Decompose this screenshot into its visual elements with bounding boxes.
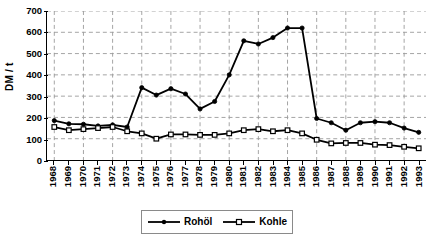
- plot-area: [46, 11, 426, 161]
- x-tick-label: 1985: [297, 166, 307, 187]
- y-axis-title: DM / t: [2, 42, 16, 112]
- x-axis-tick-labels: 1968196919701971197219731974197519761977…: [46, 166, 426, 208]
- x-tick-label: 1982: [253, 166, 263, 187]
- y-axis-tick-labels: 0100200300400500600700: [16, 8, 42, 163]
- x-tick-label: 1974: [136, 166, 146, 187]
- x-tick-label: 1970: [78, 166, 88, 187]
- x-tick-mark: [404, 161, 405, 165]
- x-tick-mark: [214, 161, 215, 165]
- x-tick-mark: [419, 161, 420, 165]
- chart-legend: RohölKohle: [141, 210, 293, 234]
- x-tick-label: 1972: [107, 166, 117, 187]
- x-tick-mark: [83, 161, 84, 165]
- x-tick-label: 1987: [326, 166, 336, 187]
- y-tick-mark: [44, 140, 48, 141]
- x-tick-mark: [229, 161, 230, 165]
- x-tick-mark: [199, 161, 200, 165]
- chart-container: DM / t 0100200300400500600700 1968196919…: [0, 0, 435, 245]
- x-tick-label: 1975: [151, 166, 161, 187]
- x-tick-mark: [389, 161, 390, 165]
- x-tick-mark: [375, 161, 376, 165]
- x-tick-label: 1986: [311, 166, 321, 187]
- x-tick-mark: [243, 161, 244, 165]
- legend-entry: Rohöl: [147, 217, 212, 227]
- series-kohle: [52, 125, 421, 151]
- legend-label: Kohle: [259, 217, 287, 227]
- y-tick-mark: [44, 32, 48, 33]
- x-tick-label: 1988: [341, 166, 351, 187]
- series-rohoel: [52, 26, 421, 134]
- y-tick-mark: [44, 11, 48, 12]
- x-tick-mark: [258, 161, 259, 165]
- legend-entry: Kohle: [222, 217, 287, 227]
- x-tick-label: 1983: [268, 166, 278, 187]
- x-tick-mark: [97, 161, 98, 165]
- data-series-layer: [47, 11, 426, 160]
- y-tick-mark: [44, 75, 48, 76]
- x-tick-label: 1977: [180, 166, 190, 187]
- y-tick-label: 100: [16, 135, 42, 145]
- x-tick-label: 1968: [48, 166, 58, 187]
- x-tick-label: 1989: [355, 166, 365, 187]
- y-tick-label: 300: [16, 92, 42, 102]
- x-tick-mark: [53, 161, 54, 165]
- y-tick-mark: [44, 54, 48, 55]
- x-tick-mark: [302, 161, 303, 165]
- y-tick-label: 0: [16, 156, 42, 166]
- y-tick-label: 600: [16, 28, 42, 38]
- legend-label: Rohöl: [184, 217, 212, 227]
- x-tick-label: 1992: [399, 166, 409, 187]
- x-tick-mark: [141, 161, 142, 165]
- x-tick-label: 1971: [92, 166, 102, 187]
- filled-diamond-marker-icon: [147, 217, 181, 227]
- x-tick-label: 1980: [224, 166, 234, 187]
- open-square-marker-icon: [222, 217, 256, 227]
- x-tick-label: 1984: [282, 166, 292, 187]
- x-tick-label: 1978: [194, 166, 204, 187]
- y-tick-mark: [44, 97, 48, 98]
- x-tick-mark: [346, 161, 347, 165]
- x-tick-mark: [273, 161, 274, 165]
- x-tick-mark: [360, 161, 361, 165]
- x-tick-mark: [112, 161, 113, 165]
- x-tick-mark: [331, 161, 332, 165]
- y-tick-mark: [44, 118, 48, 119]
- x-tick-mark: [287, 161, 288, 165]
- x-tick-label: 1976: [165, 166, 175, 187]
- x-tick-mark: [68, 161, 69, 165]
- y-tick-label: 700: [16, 6, 42, 16]
- y-tick-label: 400: [16, 71, 42, 81]
- x-tick-label: 1979: [209, 166, 219, 187]
- x-tick-label: 1990: [370, 166, 380, 187]
- x-tick-mark: [185, 161, 186, 165]
- x-tick-label: 1991: [384, 166, 394, 187]
- x-tick-label: 1981: [238, 166, 248, 187]
- y-tick-label: 200: [16, 113, 42, 123]
- x-tick-mark: [126, 161, 127, 165]
- y-tick-label: 500: [16, 49, 42, 59]
- x-tick-label: 1993: [414, 166, 424, 187]
- x-tick-label: 1969: [63, 166, 73, 187]
- x-tick-mark: [170, 161, 171, 165]
- x-tick-mark: [156, 161, 157, 165]
- x-tick-mark: [316, 161, 317, 165]
- x-tick-label: 1973: [121, 166, 131, 187]
